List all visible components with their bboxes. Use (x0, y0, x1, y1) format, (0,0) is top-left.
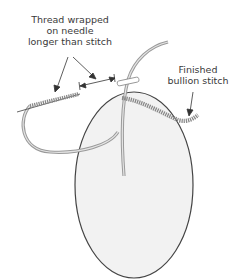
bullion-stitch-diagram: Thread wrapped on needle longer than sti… (0, 0, 242, 279)
wrapped-coil (30, 94, 79, 106)
label-line: longer than stitch (22, 36, 118, 47)
label-line: on needle (22, 25, 118, 36)
label-line: Finished (160, 64, 236, 75)
finished-stitch-label: Finished bullion stitch (160, 64, 236, 86)
label-line: Thread wrapped (22, 14, 118, 25)
label-line: bullion stitch (160, 75, 236, 86)
thread-wrapped-label: Thread wrapped on needle longer than sti… (22, 14, 118, 47)
